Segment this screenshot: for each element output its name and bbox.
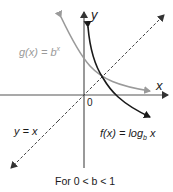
- reflection-line-label: y = x: [14, 126, 38, 137]
- caption: For 0 < b < 1: [55, 176, 115, 187]
- exponential-label-text: g(x) = b: [19, 46, 57, 58]
- graph-canvas: [0, 0, 173, 192]
- exponential-label-exponent: x: [57, 45, 61, 52]
- exponential-curve-label: g(x) = bx: [19, 45, 60, 58]
- logarithm-label-text: f(x) = log: [100, 127, 143, 139]
- logarithm-curve-label: f(x) = logb x: [100, 128, 156, 141]
- origin-label: 0: [87, 98, 93, 108]
- exponential-curve: [61, 17, 150, 91]
- x-axis-label: x: [156, 79, 163, 92]
- logarithm-label-arg: x: [147, 127, 156, 139]
- reflection-line-y-equals-x: [58, 15, 164, 121]
- y-axis-label: y: [91, 8, 98, 21]
